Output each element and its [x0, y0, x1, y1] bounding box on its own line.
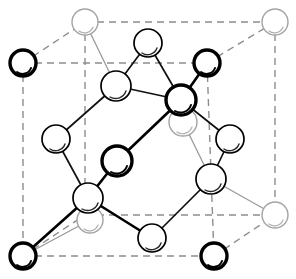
atom-face-center-bottom	[138, 224, 166, 252]
atom-face-center-top	[134, 29, 162, 57]
atom-corner-front-top-left	[10, 50, 36, 76]
atom-interior-upper-left	[101, 71, 131, 101]
atom-face-center-left	[42, 125, 70, 153]
atom-corner-front-bottom-right	[201, 243, 227, 269]
atom-corner-front-bottom-left	[10, 243, 36, 269]
crystal-structure-figure: Diamond cubic crystal structure unit cel…	[0, 0, 296, 279]
diamond-cubic-lattice-svg	[0, 0, 296, 279]
atom-corner-back-top-left	[72, 9, 98, 35]
atom-interior-bottom-left	[73, 183, 103, 213]
atom-corner-front-top-right	[194, 50, 220, 76]
cell-edge-front-right	[207, 63, 214, 256]
atom-corner-back-top-right	[262, 9, 288, 35]
atom-interior-upper-right	[166, 85, 196, 115]
atom-face-center-right	[216, 125, 244, 153]
atom-interior-lower-left	[102, 146, 132, 176]
atom-corner-back-bottom-right	[262, 202, 288, 228]
atom-interior-lower-right	[196, 164, 226, 194]
